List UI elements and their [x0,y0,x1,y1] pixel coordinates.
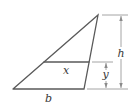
label-x: x [63,64,70,77]
triangle-diagram: h y x b [0,0,137,108]
triangle-outline [13,15,98,89]
label-y: y [102,68,110,81]
arrow-down-icon [104,83,107,88]
arrow-up-icon [119,16,122,21]
label-b: b [45,92,52,105]
label-h: h [118,47,125,60]
arrow-down-icon [119,83,122,88]
